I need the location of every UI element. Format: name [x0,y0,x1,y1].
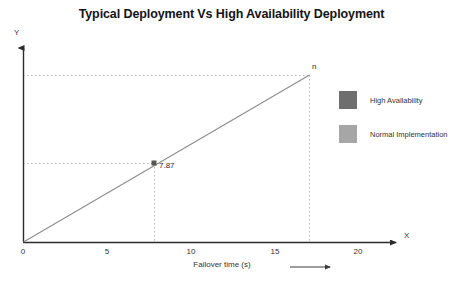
legend-swatch-icon-high-availability [339,91,357,109]
y-axis-letter: Y [14,28,19,37]
chart-container: Typical Deployment Vs High Availability … [0,0,463,284]
x-axis-letter: X [404,231,409,240]
series-line-normal-implementation [24,75,310,242]
x-tick-label-20: 20 [354,247,363,256]
x-tick-label-10: 10 [187,247,196,256]
x-tick-label-5: 5 [105,247,109,256]
data-point-label-787: 7.87 [159,161,175,170]
legend-swatch-icon-normal-implementation [339,125,357,143]
x-axis-caption: Failover time (s) [193,260,250,269]
x-tick-label-0: 0 [21,247,25,256]
legend-item-normal-implementation[interactable]: Normal Implementation [339,125,459,143]
chart-legend: High Availability Normal Implementation [339,91,459,159]
x-tick-label-15: 15 [271,247,280,256]
legend-label-normal-implementation: Normal Implementation [370,130,448,139]
data-point-label-n: n [312,62,316,71]
legend-item-high-availability[interactable]: High Availability [339,91,459,109]
legend-label-high-availability: High Availability [370,96,422,105]
data-point-marker-787[interactable] [152,161,157,166]
